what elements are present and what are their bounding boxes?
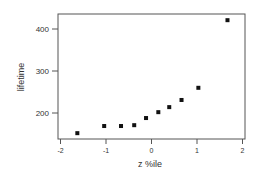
data-point-marker bbox=[196, 86, 200, 90]
y-tick-label: 300 bbox=[36, 67, 50, 76]
y-axis: 200300400 bbox=[36, 25, 58, 118]
data-point-marker bbox=[75, 131, 79, 135]
x-tick-label: 1 bbox=[195, 147, 199, 154]
data-points bbox=[75, 18, 229, 135]
x-tick-label: -2 bbox=[57, 147, 63, 154]
data-point-marker bbox=[132, 123, 136, 127]
scatter-chart: 200300400 -2-1012 lifetime z %ile bbox=[0, 0, 266, 178]
data-point-marker bbox=[180, 98, 184, 102]
y-axis-label: lifetime bbox=[16, 63, 26, 92]
data-point-marker bbox=[102, 124, 106, 128]
x-tick-label: -1 bbox=[103, 147, 109, 154]
data-point-marker bbox=[144, 116, 148, 120]
data-point-marker bbox=[225, 18, 229, 22]
x-axis-label: z %ile bbox=[138, 159, 162, 169]
y-tick-label: 200 bbox=[36, 109, 50, 118]
plot-frame bbox=[58, 14, 245, 139]
x-tick-label: 0 bbox=[150, 147, 154, 154]
y-tick-label: 400 bbox=[36, 25, 50, 34]
data-point-marker bbox=[167, 105, 171, 109]
x-tick-label: 2 bbox=[241, 147, 245, 154]
data-point-marker bbox=[156, 110, 160, 114]
x-axis: -2-1012 bbox=[57, 139, 244, 154]
data-point-marker bbox=[119, 124, 123, 128]
